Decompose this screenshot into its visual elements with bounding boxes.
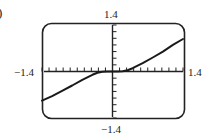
plot-area xyxy=(0,0,210,140)
